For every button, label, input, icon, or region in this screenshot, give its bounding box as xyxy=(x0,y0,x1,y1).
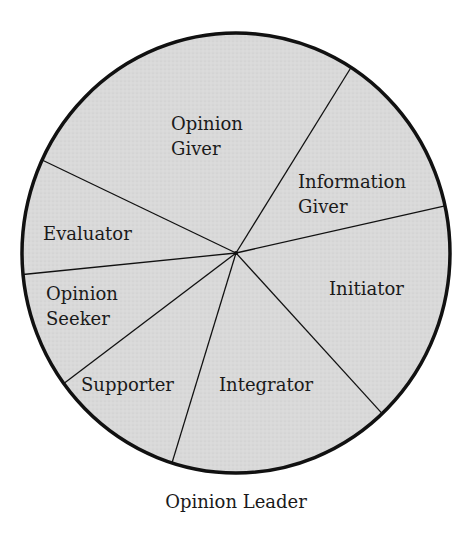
slice-label-integrator: Integrator xyxy=(219,374,314,395)
slice-label-supporter: Supporter xyxy=(81,374,174,395)
slice-label-evaluator: Evaluator xyxy=(43,223,132,244)
pie-body xyxy=(22,33,450,473)
pie-center-point xyxy=(234,251,238,255)
chart-caption: Opinion Leader xyxy=(165,491,307,512)
pie-chart: InformationGiverInitiatorIntegratorSuppo… xyxy=(0,0,462,546)
slice-label-initiator: Initiator xyxy=(329,278,404,299)
